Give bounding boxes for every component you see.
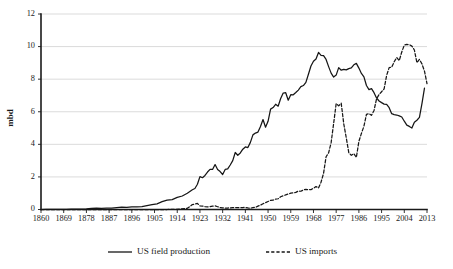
x-tick-label: 1860 — [33, 214, 50, 223]
x-axis-ticks: 1860186918781887189619051914192319321941… — [33, 210, 436, 224]
chart-legend: US field productionUS imports — [108, 246, 338, 256]
x-tick-label: 1986 — [351, 214, 368, 223]
series-us-imports — [41, 44, 427, 209]
chart-container: 024681012 186018691878188718961905191419… — [0, 0, 453, 269]
y-tick-label: 0 — [31, 204, 35, 213]
y-tick-label: 4 — [31, 139, 36, 148]
y-axis-title: mbd — [5, 109, 15, 127]
data-series-group — [41, 44, 427, 209]
x-tick-label: 1905 — [146, 214, 163, 223]
x-tick-label: 1878 — [78, 214, 95, 223]
x-tick-label: 1977 — [328, 214, 345, 223]
x-tick-label: 1923 — [192, 214, 209, 223]
y-tick-label: 12 — [27, 9, 35, 18]
y-tick-label: 8 — [31, 74, 35, 83]
x-tick-label: 1995 — [373, 214, 390, 223]
legend-label-2: US imports — [295, 246, 338, 256]
series-us-field-production — [41, 52, 424, 209]
y-axis-ticks: 024681012 — [27, 9, 41, 214]
x-tick-label: 1950 — [260, 214, 277, 223]
gridlines — [41, 14, 427, 177]
y-tick-label: 2 — [31, 172, 35, 181]
y-tick-label: 6 — [31, 107, 35, 116]
x-tick-label: 1959 — [282, 214, 299, 223]
y-tick-label: 10 — [27, 41, 35, 50]
x-tick-label: 2013 — [419, 214, 436, 223]
x-tick-label: 1941 — [237, 214, 254, 223]
x-tick-label: 2004 — [396, 214, 413, 223]
legend-label-1: US field production — [137, 246, 210, 256]
x-tick-label: 1869 — [55, 214, 72, 223]
x-tick-label: 1968 — [305, 214, 322, 223]
x-tick-label: 1887 — [101, 214, 118, 223]
x-tick-label: 1896 — [124, 214, 141, 223]
line-chart: 024681012 186018691878188718961905191419… — [0, 0, 453, 269]
x-tick-label: 1932 — [214, 214, 231, 223]
x-tick-label: 1914 — [169, 214, 186, 223]
